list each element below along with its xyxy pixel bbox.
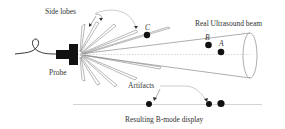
arrowhead-icon bbox=[99, 18, 103, 21]
true-target-dot bbox=[217, 100, 224, 107]
b-mode-display-label: Resulting B-mode display bbox=[125, 115, 204, 124]
ultrasound-side-lobe-diagram: Side lobes C Real Ultrasound beam B A Pr… bbox=[0, 0, 285, 129]
real-beam-label: Real Ultrasound beam bbox=[195, 19, 262, 28]
point-c-label: C bbox=[145, 23, 151, 32]
point-c-dot bbox=[144, 32, 150, 38]
probe-label: Probe bbox=[49, 68, 67, 77]
side-lobes-label: Side lobes bbox=[45, 7, 76, 16]
artifacts-label: Artifacts bbox=[128, 81, 154, 90]
main-beam bbox=[80, 33, 250, 78]
point-a-label: A bbox=[218, 39, 224, 48]
artifact-dot-left bbox=[146, 101, 152, 107]
artifact-dot-right bbox=[206, 101, 212, 107]
beam-end-ellipse bbox=[243, 33, 257, 78]
point-a-dot bbox=[218, 49, 225, 56]
arrowhead-icon bbox=[153, 97, 157, 101]
probe-cable bbox=[15, 39, 57, 54]
artifacts-arrow-left bbox=[155, 89, 160, 99]
probe-head bbox=[69, 44, 78, 65]
probe-handle bbox=[56, 50, 70, 59]
arrowhead-icon bbox=[134, 26, 138, 29]
point-b-label: B bbox=[205, 33, 210, 42]
artifacts-arrow-right bbox=[160, 86, 206, 101]
point-b-dot bbox=[205, 42, 212, 49]
